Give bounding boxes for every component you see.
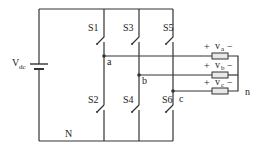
node-c-label: c <box>179 93 184 104</box>
inverter-circuit-diagram: V dc N S1 S2 a S3 S4 b S5 S6 c <box>0 0 262 150</box>
svg-text:v: v <box>215 59 220 70</box>
load-c-voltage-label: + v c − <box>204 76 233 89</box>
svg-text:v: v <box>215 76 220 87</box>
svg-text:−: − <box>227 77 233 88</box>
svg-text:v: v <box>215 40 220 51</box>
node-a-label: a <box>107 56 112 67</box>
switch-s4-icon <box>132 105 139 112</box>
load-b-voltage-label: + v b − <box>204 59 233 72</box>
dc-source-battery-icon <box>30 64 48 69</box>
ground-label: N <box>65 128 72 139</box>
svg-text:c: c <box>221 81 224 89</box>
switch-s3-label: S3 <box>123 22 134 33</box>
neutral-label: n <box>245 86 250 97</box>
svg-text:+: + <box>204 77 210 88</box>
circuit-svg: V dc N S1 S2 a S3 S4 b S5 S6 c <box>0 0 262 150</box>
load-c-resistor-icon <box>212 88 228 94</box>
switch-s2-icon <box>97 105 104 112</box>
switch-s6-label: S6 <box>162 94 173 105</box>
node-b-label: b <box>142 75 147 86</box>
switch-s5-label: S5 <box>163 22 174 33</box>
load-a-voltage-label: + v a − <box>204 40 233 53</box>
switch-s4-label: S4 <box>123 94 134 105</box>
svg-text:+: + <box>204 41 210 52</box>
svg-text:−: − <box>227 41 233 52</box>
svg-text:+: + <box>204 60 210 71</box>
source-subscript: dc <box>19 63 26 71</box>
svg-text:a: a <box>221 45 225 53</box>
svg-text:b: b <box>221 64 225 72</box>
svg-text:−: − <box>227 60 233 71</box>
switch-s6-icon <box>166 105 173 112</box>
switch-s1-label: S1 <box>88 22 99 33</box>
switch-s2-label: S2 <box>88 94 99 105</box>
